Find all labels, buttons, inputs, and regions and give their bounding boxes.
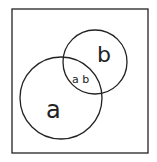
set-b-label: b [97,42,111,67]
set-a-circle [20,57,102,139]
set-a-label: a [46,96,61,124]
venn-diagram: a b a b [0,0,157,162]
intersection-label: a b [72,73,89,86]
